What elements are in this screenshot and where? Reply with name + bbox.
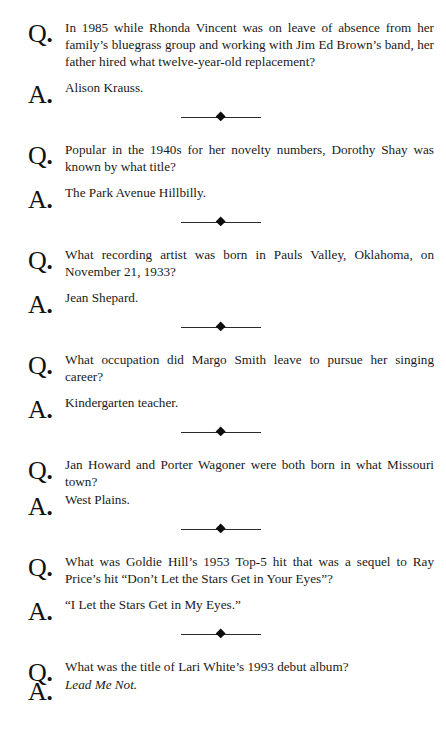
spacer [0,440,446,455]
top-margin [0,0,446,18]
question-row: Q. In 1985 while Rhonda Vincent was on l… [28,18,434,70]
spacer [0,335,446,350]
spacer [0,230,446,245]
answer-row: A. West Plains. [28,491,434,508]
answer-text: Lead Me Not. [65,676,434,693]
answer-row: A. The Park Avenue Hillbilly. [28,184,434,201]
question-marker: Q. [28,462,65,479]
diamond-icon [215,322,225,332]
question-marker: Q. [28,357,65,374]
spacer [0,613,446,628]
answer-marker: A. [28,191,65,208]
spacer [0,411,446,426]
question-row: Q. What was the title of Lari White’s 19… [28,657,434,675]
question-text: What recording artist was born in Pauls … [65,245,434,280]
question-row: Q. What was Goldie Hill’s 1953 Top-5 hit… [28,552,434,587]
qa-gap [28,280,434,289]
answer-marker: A. [28,498,65,515]
spacer [0,306,446,321]
answer-text: The Park Avenue Hillbilly. [65,184,434,201]
spacer [0,642,446,657]
question-text: What was Goldie Hill’s 1953 Top-5 hit th… [65,552,434,587]
spacer [0,125,446,140]
answer-marker: A. [28,603,65,620]
document-page: Q. In 1985 while Rhonda Vincent was on l… [0,0,446,755]
section-separator [0,216,446,230]
answer-text: West Plains. [65,491,434,508]
qa-entry: Q. Jan Howard and Porter Wagoner were bo… [0,455,446,508]
question-row: Q. Jan Howard and Porter Wagoner were bo… [28,455,434,490]
section-separator [0,426,446,440]
question-marker: Q. [28,147,65,164]
answer-marker: A. [28,683,65,700]
diamond-icon [215,427,225,437]
diamond-icon [215,524,225,534]
answer-text: Alison Krauss. [65,79,434,96]
answer-marker: A. [28,296,65,313]
answer-row: A. Lead Me Not. [28,676,434,693]
spacer [0,96,446,111]
answer-row: A. Kindergarten teacher. [28,394,434,411]
qa-gap [28,385,434,394]
answer-text: Kindergarten teacher. [65,394,434,411]
question-row: Q. Popular in the 1940s for her novelty … [28,140,434,175]
answer-row: A. Jean Shepard. [28,289,434,306]
answer-row: A. Alison Krauss. [28,79,434,96]
answer-marker: A. [28,401,65,418]
section-separator [0,523,446,537]
qa-entry: Q. What was the title of Lari White’s 19… [0,657,446,693]
qa-entry: Q. Popular in the 1940s for her novelty … [0,140,446,201]
diamond-icon [215,112,225,122]
question-marker: Q. [28,559,65,576]
question-row: Q. What occupation did Margo Smith leave… [28,350,434,385]
qa-entry: Q. What was Goldie Hill’s 1953 Top-5 hit… [0,552,446,613]
section-separator [0,321,446,335]
section-separator [0,111,446,125]
qa-entry: Q. What occupation did Margo Smith leave… [0,350,446,411]
answer-marker: A. [28,86,65,103]
question-text: Popular in the 1940s for her novelty num… [65,140,434,175]
answer-text: Jean Shepard. [65,289,434,306]
diamond-icon [215,217,225,227]
qa-entry: Q. What recording artist was born in Pau… [0,245,446,306]
question-text: What was the title of Lari White’s 1993 … [65,657,434,675]
qa-gap [28,175,434,184]
question-text: What occupation did Margo Smith leave to… [65,350,434,385]
qa-entry: Q. In 1985 while Rhonda Vincent was on l… [0,18,446,96]
diamond-icon [215,629,225,639]
question-text: Jan Howard and Porter Wagoner were both … [65,455,434,490]
qa-gap [28,70,434,79]
section-separator [0,628,446,642]
spacer [0,201,446,216]
answer-text: “I Let the Stars Get in My Eyes.” [65,596,434,613]
question-marker: Q. [28,252,65,269]
question-text: In 1985 while Rhonda Vincent was on leav… [65,18,434,70]
spacer [0,537,446,552]
qa-gap [28,587,434,596]
spacer [0,508,446,523]
question-row: Q. What recording artist was born in Pau… [28,245,434,280]
question-marker: Q. [28,25,65,42]
answer-row: A. “I Let the Stars Get in My Eyes.” [28,596,434,613]
